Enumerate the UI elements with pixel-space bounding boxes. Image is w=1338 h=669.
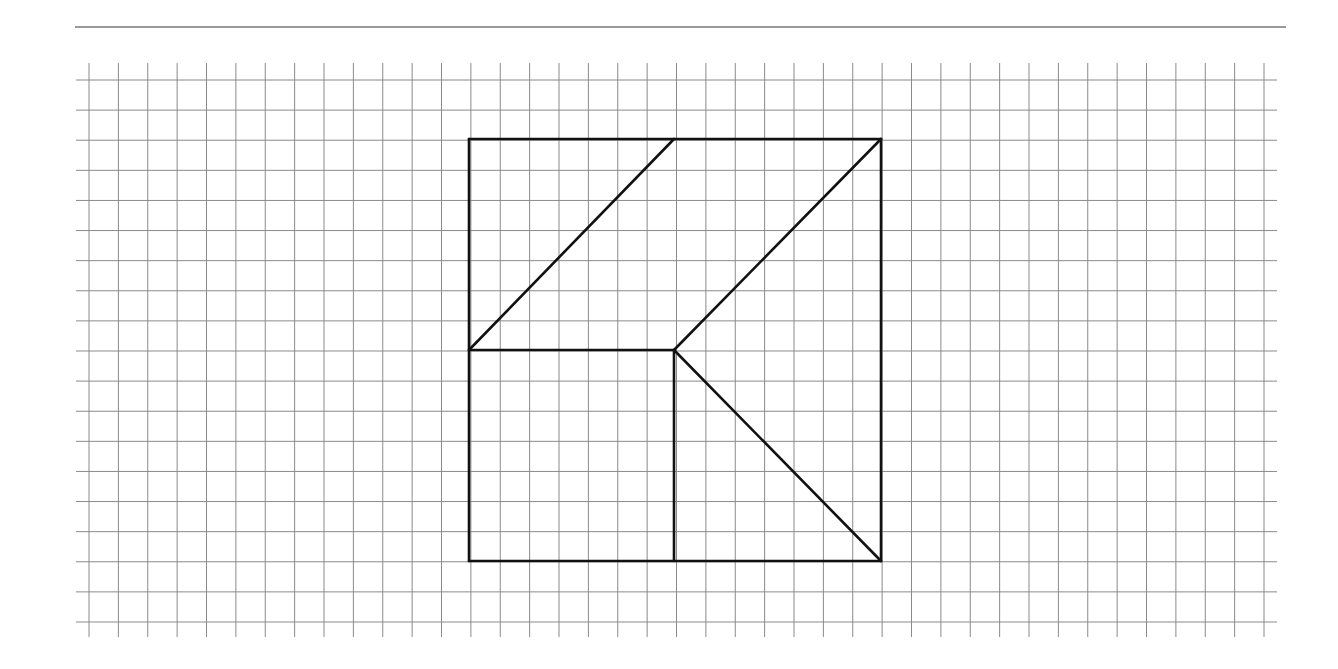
lower-right-diagonal [674,350,881,561]
grid-lines [76,63,1277,637]
square-dissection [469,139,881,561]
graph-paper-figure [0,0,1338,669]
